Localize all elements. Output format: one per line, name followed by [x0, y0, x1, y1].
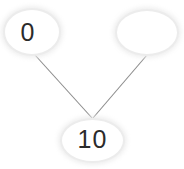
- number-bond-node-part-left[interactable]: 0: [3, 8, 61, 56]
- number-bond-node-whole[interactable]: 10: [60, 118, 125, 163]
- edge-right-part-to-whole: [93, 55, 147, 118]
- edge-left-part-to-whole: [35, 55, 92, 118]
- number-bond-node-part-left-label: 0: [21, 20, 36, 45]
- number-bond-diagram: 0 10: [0, 0, 184, 169]
- number-bond-node-whole-label: 10: [78, 127, 108, 152]
- number-bond-node-part-right[interactable]: [115, 9, 179, 56]
